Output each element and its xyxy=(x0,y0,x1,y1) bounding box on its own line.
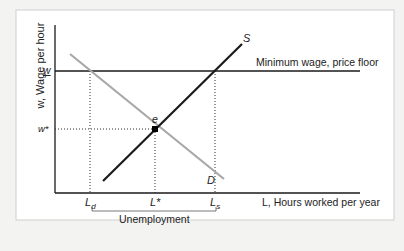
x-axis-label: L, Hours worked per year xyxy=(262,197,380,208)
supply-label: S xyxy=(243,33,250,44)
ls-label: Ls xyxy=(210,197,220,211)
unemployment-label: Unemployment xyxy=(119,214,190,225)
demand-label: D xyxy=(207,175,215,186)
ld-sub: d xyxy=(91,202,95,211)
equilibrium-point xyxy=(152,126,158,132)
lstar-label: L* xyxy=(150,197,160,208)
figure-frame xyxy=(16,10,394,220)
x-axis-label-text: L, Hours worked per year xyxy=(262,196,380,208)
min-wage-label: w xyxy=(43,65,51,76)
price-floor-label: Minimum wage, price floor xyxy=(256,57,379,68)
equilibrium-point-label: e xyxy=(152,114,158,125)
ls-sub: s xyxy=(216,202,220,211)
ld-label: Ld xyxy=(85,197,96,211)
equilibrium-wage-label: w* xyxy=(38,124,49,134)
minimum-wage-diagram xyxy=(0,0,404,251)
